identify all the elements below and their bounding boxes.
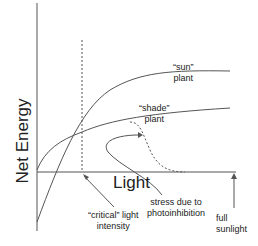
x-axis-label: Light bbox=[113, 174, 150, 191]
critical-label-line2: intensity bbox=[88, 221, 139, 232]
stress-label-line2: photoinhibition bbox=[147, 208, 205, 219]
critical-arrow bbox=[84, 176, 114, 207]
shade-plant-label: “shade” plant bbox=[139, 103, 170, 125]
critical-arrowhead bbox=[83, 174, 89, 180]
sun-label-line1: “sun” bbox=[173, 62, 194, 73]
stress-label: stress due to photoinhibition bbox=[147, 197, 205, 219]
critical-label-line1: “critical” light bbox=[88, 210, 139, 221]
shade-label-line2: plant bbox=[139, 114, 170, 125]
shade-plant-curve bbox=[37, 108, 230, 170]
critical-light-label: “critical” light intensity bbox=[88, 210, 139, 232]
full-label-line2: sunlight bbox=[216, 224, 247, 235]
sun-plant-label: “sun” plant bbox=[173, 62, 194, 84]
shade-label-line1: “shade” bbox=[139, 103, 170, 114]
full-sunlight-label: full sunlight bbox=[216, 213, 247, 235]
shade-plant-stress-dashed bbox=[130, 122, 185, 172]
full-label-line1: full bbox=[216, 213, 247, 224]
sun-label-line2: plant bbox=[173, 73, 194, 84]
stress-label-line1: stress due to bbox=[147, 197, 205, 208]
full-sunlight-arrowhead bbox=[231, 173, 237, 179]
y-axis-label: Net Energy bbox=[14, 104, 31, 184]
